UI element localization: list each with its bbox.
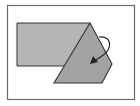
fold-diagram xyxy=(0,0,140,106)
